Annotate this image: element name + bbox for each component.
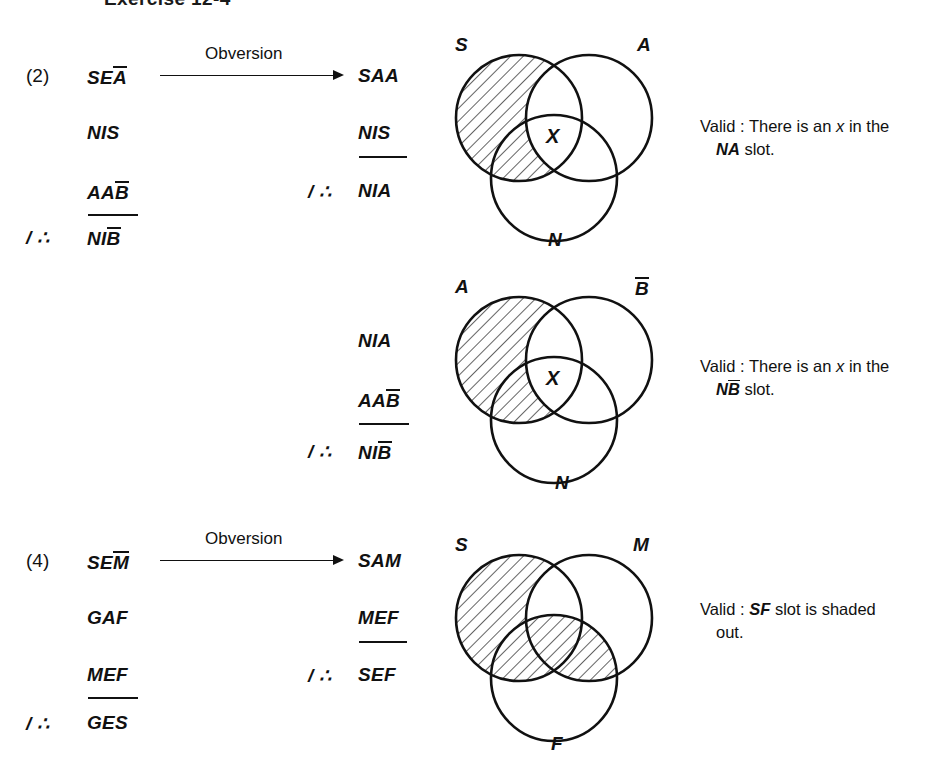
argument-3-left-premise-2: GAF	[87, 607, 128, 629]
venn-1-label-right: A	[637, 34, 651, 56]
venn-1-label-left: S	[455, 34, 468, 56]
obversion-arrow-1	[160, 70, 346, 82]
argument-3-left-therefore-symbol: / ∴	[26, 712, 49, 735]
argument-1-left-premise-2: NIS	[87, 122, 120, 144]
obversion-arrow-2	[160, 555, 346, 567]
argument-2-right-premise-2: AAB	[358, 388, 400, 412]
obversion-label-1: Obversion	[205, 44, 282, 64]
venn-diagram-1: S A N X	[447, 30, 662, 255]
venn-2-label-bottom: N	[555, 472, 569, 494]
argument-1-right-premise-1: SAA	[358, 65, 399, 87]
verdict-3-slot: SF	[749, 600, 770, 618]
verdict-3: Valid : SF slot is shaded out.	[700, 598, 940, 645]
verdict-2-suffix: slot.	[740, 380, 775, 398]
argument-3-right-premise-2: MEF	[358, 607, 399, 629]
argument-2-right-premise-1: NIA	[358, 330, 392, 352]
verdict-1-prefix: Valid : There is an	[700, 117, 836, 135]
argument-2-right-conclusion: NIB	[358, 440, 392, 464]
argument-index-2: (2)	[26, 65, 49, 87]
verdict-2: Valid : There is an x in the NB slot.	[700, 355, 940, 402]
verdict-2-middle: in the	[844, 357, 889, 375]
argument-1-left-inference-bar	[88, 214, 138, 216]
argument-3-left-premise-1: SEM	[87, 550, 129, 574]
verdict-1-slot: NA	[716, 140, 740, 158]
venn-3-label-left: S	[455, 534, 468, 556]
venn-2-label-right: B	[635, 276, 649, 300]
venn-1-label-bottom: N	[548, 229, 562, 251]
venn-diagram-3: S M F	[447, 530, 662, 760]
verdict-1-middle: in the	[844, 117, 889, 135]
argument-3-right-inference-bar	[359, 641, 407, 643]
venn-2-x-mark: X	[546, 367, 559, 390]
argument-index-4: (4)	[26, 550, 49, 572]
argument-1-right-inference-bar	[359, 156, 407, 158]
argument-1-left-conclusion: NIB	[87, 226, 121, 250]
venn-1-x-mark: X	[546, 125, 559, 148]
argument-1-left-therefore-symbol: / ∴	[26, 226, 49, 249]
argument-1-left-premise-3: AAB	[87, 180, 129, 204]
verdict-3-suffix: slot is shaded	[770, 600, 875, 618]
argument-1-right-conclusion: NIA	[358, 180, 392, 202]
argument-2-right-inference-bar	[359, 423, 409, 425]
verdict-2-prefix: Valid : There is an	[700, 357, 836, 375]
argument-3-right-premise-1: SAM	[358, 550, 401, 572]
verdict-1: Valid : There is an x in the NA slot.	[700, 115, 940, 162]
argument-1-right-therefore-symbol: / ∴	[308, 180, 331, 203]
venn-2-label-right-text: B	[635, 277, 649, 298]
argument-1-right-premise-2: NIS	[358, 122, 391, 144]
verdict-2-slot-bar: B	[728, 380, 740, 398]
verdict-2-slot-first: N	[716, 380, 728, 398]
venn-3-label-bottom: F	[551, 733, 563, 755]
obversion-label-2: Obversion	[205, 529, 282, 549]
argument-3-left-premise-3: MEF	[87, 664, 128, 686]
verdict-1-suffix: slot.	[740, 140, 775, 158]
page-title: Exercise 12-4	[104, 0, 231, 10]
argument-3-left-conclusion: GES	[87, 712, 128, 734]
venn-diagram-3-svg	[447, 530, 662, 760]
verdict-3-second-line: out.	[700, 621, 940, 644]
argument-3-right-therefore-symbol: / ∴	[308, 664, 331, 687]
venn-2-label-left: A	[455, 276, 469, 298]
argument-3-left-inference-bar	[88, 697, 138, 699]
argument-1-left-premise-1: SEA	[87, 65, 127, 89]
venn-diagram-2: A B N X	[447, 272, 662, 497]
verdict-3-prefix: Valid :	[700, 600, 749, 618]
argument-2-right-therefore-symbol: / ∴	[308, 440, 331, 463]
argument-3-right-conclusion: SEF	[358, 664, 396, 686]
venn-3-label-right: M	[633, 534, 649, 556]
